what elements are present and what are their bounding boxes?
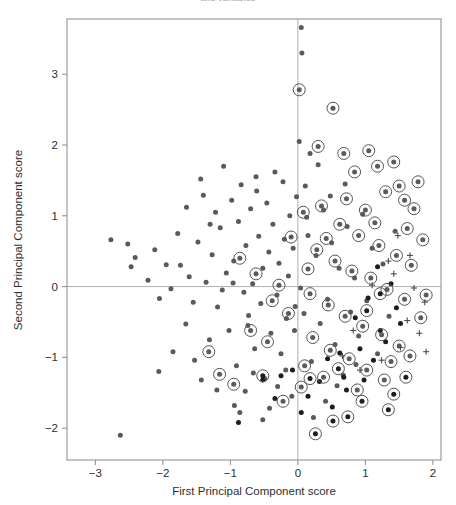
marker-dot: [297, 139, 302, 144]
marker-dot: [318, 321, 323, 326]
marker-dot: [341, 375, 346, 380]
marker-dot: [298, 285, 303, 290]
marker-dot: [337, 351, 342, 356]
marker-dot: [207, 337, 212, 342]
marker-dot: [204, 280, 209, 285]
marker-dot: [371, 358, 376, 363]
marker-dot: [192, 358, 197, 363]
marker-dot: [218, 225, 223, 230]
x-axis: −3−2−1012: [89, 460, 436, 479]
marker-dot: [264, 201, 269, 206]
marker-dot: [187, 274, 192, 279]
x-tick-label: 2: [430, 467, 436, 479]
marker-dot: [246, 313, 251, 318]
marker-dot: [118, 433, 123, 438]
marker-dot: [208, 222, 213, 227]
marker-dot: [237, 410, 242, 415]
marker-dot: [362, 378, 367, 383]
marker-dot: [125, 242, 130, 247]
marker-dot: [266, 249, 271, 254]
marker-dot: [387, 314, 392, 319]
marker-dot: [227, 328, 232, 333]
marker-dot: [279, 373, 284, 378]
marker-dot: [344, 387, 349, 392]
x-tick-label: −2: [156, 467, 169, 479]
marker-dot: [291, 246, 296, 251]
marker-dot: [272, 169, 277, 174]
marker-dot: [232, 403, 237, 408]
marker-dot: [221, 164, 226, 169]
cropped-caption-fragment: and variables: [0, 0, 456, 9]
y-tick-label: 3: [52, 68, 58, 80]
marker-dot: [215, 305, 220, 310]
marker-dot: [198, 176, 203, 181]
marker-dot: [213, 210, 218, 215]
marker-dot: [236, 219, 241, 224]
marker-dot: [294, 194, 299, 199]
marker-dot: [175, 231, 180, 236]
marker-dot: [343, 181, 348, 186]
y-tick-label: −2: [45, 422, 58, 434]
marker-dot: [301, 311, 306, 316]
marker-dot: [308, 151, 313, 156]
y-axis-title: Second Principal Component score: [12, 150, 24, 330]
marker-dot: [201, 193, 206, 198]
marker-dot: [299, 25, 304, 30]
marker-dot: [325, 356, 330, 361]
marker-dot: [156, 369, 161, 374]
cropped-caption-text: and variables: [200, 0, 255, 3]
marker-dot: [292, 328, 297, 333]
marker-dot: [353, 315, 358, 320]
marker-dot: [236, 420, 241, 425]
marker-dot: [356, 334, 361, 339]
marker-dot: [299, 50, 304, 55]
marker-dot: [299, 410, 304, 415]
marker-dot: [234, 363, 239, 368]
x-axis-title: First Principal Component score: [172, 485, 336, 497]
marker-dot: [129, 264, 134, 269]
marker-dot: [375, 264, 380, 269]
marker-dot: [393, 229, 398, 234]
marker-dot: [306, 394, 311, 399]
x-tick-label: −1: [224, 467, 237, 479]
pca-scatter-svg: −3−2−1012 −2−10123 First Principal Compo…: [0, 0, 456, 505]
marker-dot: [366, 295, 371, 300]
marker-dot: [184, 205, 189, 210]
marker-dot: [303, 184, 308, 189]
marker-dot: [316, 162, 321, 167]
marker-dot: [191, 300, 196, 305]
marker-dot: [394, 305, 399, 310]
marker-dot: [231, 281, 236, 286]
marker-dot: [183, 322, 188, 327]
marker-dot: [243, 389, 248, 394]
marker-dot: [289, 394, 294, 399]
marker-dot: [268, 331, 273, 336]
x-tick-label: 0: [295, 467, 301, 479]
marker-dot: [258, 301, 263, 306]
marker-dot: [146, 278, 151, 283]
y-tick-label: −1: [45, 351, 58, 363]
marker-dot: [239, 182, 244, 187]
marker-dot: [260, 417, 265, 422]
marker-dot: [286, 273, 291, 278]
marker-dot: [398, 321, 403, 326]
marker-dot: [224, 271, 229, 276]
marker-dot: [267, 406, 272, 411]
marker-dot: [170, 349, 175, 354]
marker-dot: [254, 189, 259, 194]
marker-dot: [306, 233, 311, 238]
marker-dot: [254, 174, 259, 179]
marker-dot: [251, 370, 256, 375]
marker-dot: [243, 243, 248, 248]
marker-dot: [250, 281, 255, 286]
marker-dot: [195, 239, 200, 244]
x-tick-label: 1: [362, 467, 368, 479]
marker-dot: [256, 234, 261, 239]
marker-dot: [241, 290, 246, 295]
marker-dot: [157, 296, 162, 301]
marker-dot: [220, 288, 225, 293]
scatter-plot-figure: and variables −3−2−1012 −2−10123 First P…: [0, 0, 456, 505]
y-tick-label: 2: [52, 139, 58, 151]
marker-dot: [229, 198, 234, 203]
marker-dot: [375, 351, 380, 356]
